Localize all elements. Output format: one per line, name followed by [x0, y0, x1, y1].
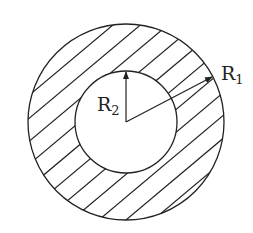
annulus-diagram: R2 R1: [0, 0, 253, 233]
r1-label: R1: [221, 62, 244, 87]
